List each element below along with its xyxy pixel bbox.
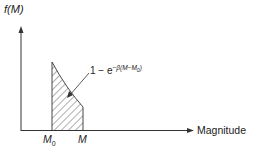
x-axis-label: Magnitude — [197, 124, 246, 136]
diagram: f(M) Magnitude M0 M 1 − e−β(M−M0) — [0, 0, 254, 153]
tick-m0-sub: 0 — [52, 140, 56, 147]
exponent-text: −β(M−M — [113, 64, 137, 71]
tick-m0-text: M — [43, 133, 52, 145]
y-axis-label: f(M) — [4, 3, 24, 15]
y-axis-label-text: f(M) — [4, 3, 24, 15]
curve-label-prefix: 1 − e — [90, 65, 113, 76]
y-axis-arrow-icon — [19, 26, 24, 33]
leader-line — [70, 73, 89, 95]
tick-m0: M0 — [43, 133, 56, 147]
x-axis-arrow-icon — [187, 128, 194, 133]
exponent-close: ) — [140, 64, 142, 71]
curve-label-exponent: −β(M−M0) — [113, 64, 142, 71]
curve-label: 1 − e−β(M−M0) — [90, 64, 142, 76]
tick-m-text: M — [78, 133, 87, 145]
tick-m: M — [78, 133, 87, 145]
